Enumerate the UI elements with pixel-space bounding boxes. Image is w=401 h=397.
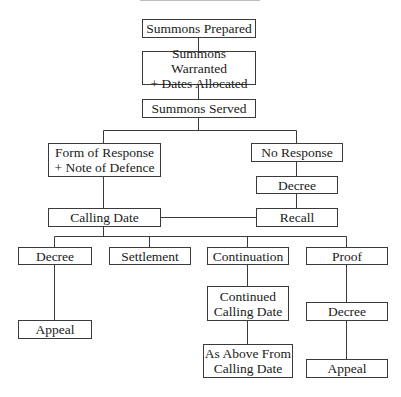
node-no-response: No Response xyxy=(251,143,343,162)
node-continuation: Continuation xyxy=(207,247,289,265)
node-appeal-left: Appeal xyxy=(18,320,92,339)
node-as-above: As Above From Calling Date xyxy=(203,344,293,378)
node-decree: Decree xyxy=(18,247,92,265)
node-form-of-response: Form of Response + Note of Defence xyxy=(48,143,161,177)
node-appeal-right: Appeal xyxy=(306,359,388,378)
node-decree-proof: Decree xyxy=(306,302,388,321)
node-summons-prepared: Summons Prepared xyxy=(142,19,256,38)
node-continued-calling-date: Continued Calling Date xyxy=(207,286,289,321)
node-decree-default: Decree xyxy=(256,176,338,194)
node-recall: Recall xyxy=(256,208,338,227)
node-summons-served: Summons Served xyxy=(142,99,256,118)
node-proof: Proof xyxy=(306,247,388,265)
node-summons-warranted: Summons Warranted + Dates Allocated xyxy=(142,51,256,85)
node-settlement: Settlement xyxy=(109,247,191,265)
node-calling-date: Calling Date xyxy=(48,208,161,227)
flowchart-canvas: Summons Prepared Summons Warranted + Dat… xyxy=(0,0,401,397)
